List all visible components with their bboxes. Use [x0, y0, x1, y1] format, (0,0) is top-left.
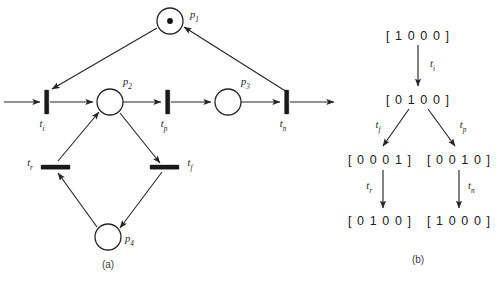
p1-arcs	[52, 27, 287, 92]
place-label-p4: p4	[124, 233, 134, 248]
tree-node-marking: [ 1 0 0 0 ]	[386, 29, 450, 43]
figure-root: ti tp tn tr tf p1	[0, 0, 503, 281]
place-p2[interactable]: p2	[97, 76, 132, 115]
tree-node-marking: [ 1 0 0 0 ]	[427, 214, 491, 228]
tree-node-marking: [ 0 0 0 1 ]	[348, 153, 412, 167]
tree-edge-label-tf: tf	[376, 119, 382, 134]
panel-b-reachability-tree: ti tf tp tr tn [ 1 0 0 0 ] [ 0 1 0 0 ] […	[340, 0, 503, 281]
place-circle-p4[interactable]	[95, 224, 121, 250]
petri-net-svg: ti tp tn tr tf p1	[0, 0, 340, 281]
arc-p4-to-tr	[58, 173, 97, 227]
transition-label-ti: ti	[40, 118, 45, 133]
arc-tn-to-p1	[184, 27, 287, 92]
place-circle-p3[interactable]	[215, 89, 241, 115]
lower-loop-arcs	[58, 112, 162, 228]
place-p4[interactable]: p4	[95, 224, 134, 250]
tree-edge-label-tr: tr	[366, 180, 372, 195]
transition-label-tn: tn	[280, 118, 287, 133]
tree-edges: ti tf tp tr tn	[366, 45, 475, 208]
token-dot-p1	[167, 18, 173, 24]
panel-a-petri-net: ti tp tn tr tf p1	[0, 0, 340, 281]
arc-p2-to-tf	[120, 113, 160, 163]
tree-edge-label-tn: tn	[468, 180, 475, 195]
place-p1[interactable]: p1	[157, 8, 199, 34]
transition-tn[interactable]: tn	[280, 90, 289, 133]
panel-a-caption: (a)	[102, 259, 114, 270]
transition-bar-ti[interactable]	[45, 90, 49, 114]
reachability-tree-svg: ti tf tp tr tn [ 1 0 0 0 ] [ 0 1 0 0 ] […	[340, 0, 503, 281]
transition-label-tp: tp	[161, 118, 168, 133]
tree-edge-n1-n3	[428, 109, 455, 146]
tree-edge-label-ti: ti	[430, 58, 435, 73]
panel-b-caption: (b)	[412, 254, 424, 265]
transition-tr[interactable]: tr	[27, 157, 70, 172]
tree-edge-n1-n2	[383, 109, 409, 146]
transition-ti[interactable]: ti	[40, 90, 49, 133]
transition-bar-tp[interactable]	[166, 90, 170, 114]
arc-tr-to-p2	[58, 112, 99, 161]
tree-node-marking: [ 0 1 0 0 ]	[386, 93, 450, 107]
tree-node-marking: [ 0 0 1 0 ]	[427, 153, 491, 167]
transition-bar-tr[interactable]	[41, 165, 70, 169]
place-circle-p2[interactable]	[97, 89, 123, 115]
tree-edge-label-tp: tp	[460, 119, 467, 134]
tree-node-marking: [ 0 1 0 0 ]	[348, 214, 412, 228]
transition-label-tf: tf	[188, 157, 194, 172]
arc-tf-to-p4	[120, 172, 162, 228]
arc-p1-to-ti	[52, 28, 157, 89]
place-p3[interactable]: p3	[215, 76, 250, 115]
transition-tp[interactable]: tp	[161, 90, 170, 133]
transition-bar-tn[interactable]	[285, 90, 289, 114]
place-label-p1: p1	[189, 9, 199, 24]
place-label-p2: p2	[122, 76, 132, 91]
place-label-p3: p3	[240, 76, 250, 91]
transition-bar-tf[interactable]	[150, 165, 179, 169]
transition-label-tr: tr	[27, 157, 33, 172]
